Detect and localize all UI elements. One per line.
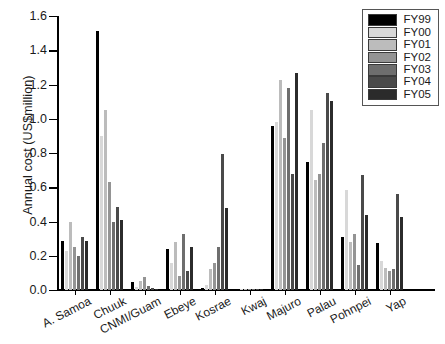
bar (380, 261, 383, 290)
x-axis-category-label: Majuro (264, 294, 303, 323)
legend-swatch (368, 76, 397, 88)
y-axis-tick (49, 85, 57, 86)
bar (61, 241, 64, 290)
bar (65, 251, 68, 290)
bar (178, 276, 181, 290)
bar (326, 93, 329, 290)
legend-label: FY99 (404, 14, 432, 26)
bar (131, 282, 134, 290)
bar (135, 287, 138, 290)
x-axis-tick (390, 290, 391, 295)
bar (108, 182, 111, 290)
bar (116, 207, 119, 290)
legend-label: FY03 (404, 64, 432, 76)
y-axis-tick (49, 187, 57, 188)
bar (357, 265, 360, 290)
y-axis-tick-label: 1.4 (30, 44, 47, 57)
legend-item: FY02 (368, 51, 432, 63)
bar (182, 234, 185, 291)
bar (96, 31, 99, 290)
y-axis-tick-label: 0.6 (30, 181, 47, 194)
x-axis-category-label: Yap (383, 294, 408, 316)
bar (287, 88, 290, 290)
x-axis-tick (215, 290, 216, 295)
bar (155, 289, 158, 290)
legend-label: FY00 (404, 27, 432, 39)
bar-group (166, 16, 194, 290)
legend-label: FY05 (404, 89, 432, 101)
bar-group (96, 16, 124, 290)
y-axis-tick-label: 1.6 (30, 10, 47, 23)
bar-group (131, 16, 159, 290)
bar (349, 242, 352, 290)
bar (85, 241, 88, 290)
bar (400, 217, 403, 290)
bar-group (61, 16, 89, 290)
bar (291, 174, 294, 290)
bar (217, 247, 220, 290)
bar (112, 222, 115, 291)
x-axis-tick (110, 290, 111, 295)
x-axis-tick (145, 290, 146, 295)
bar (318, 174, 321, 290)
x-axis-category-label: Ebeye (161, 294, 198, 322)
bar (151, 288, 154, 290)
bar (104, 110, 107, 290)
bar (236, 289, 239, 290)
bar (376, 243, 379, 290)
bar (283, 138, 286, 290)
bar (73, 247, 76, 290)
legend-swatch (368, 14, 397, 26)
bar (213, 263, 216, 290)
bar (392, 269, 395, 290)
legend-label: FY02 (404, 52, 432, 64)
bar (201, 288, 204, 290)
y-axis-tick-label: 0.2 (30, 250, 47, 263)
bar (252, 289, 255, 290)
legend-item: FY05 (368, 88, 432, 100)
legend-item: FY00 (368, 26, 432, 38)
bar (143, 277, 146, 290)
bar (322, 143, 325, 290)
bar (139, 281, 142, 290)
legend-item: FY04 (368, 76, 432, 88)
y-axis-tick-label: 0.0 (30, 284, 47, 297)
y-axis-tick (49, 153, 57, 154)
x-axis-category-label: A. Samoa (40, 294, 93, 330)
bar (365, 215, 368, 290)
bar (361, 175, 364, 290)
y-axis-tick-label: 0.8 (30, 147, 47, 160)
bar (295, 73, 298, 290)
bar (81, 237, 84, 290)
bar (271, 126, 274, 290)
bar-group (306, 16, 334, 290)
bar-group (236, 16, 264, 290)
bar (396, 194, 399, 290)
bar (205, 285, 208, 290)
bar (147, 286, 150, 290)
y-axis-tick (49, 256, 57, 257)
x-axis-tick (180, 290, 181, 295)
bar (225, 208, 228, 290)
bar (314, 180, 317, 290)
bar (209, 269, 212, 290)
plot-area: 0.00.20.40.60.81.01.21.41.6 (57, 16, 407, 290)
legend-item: FY03 (368, 64, 432, 76)
bar (120, 220, 123, 290)
x-axis-tick (285, 290, 286, 295)
legend-swatch (368, 52, 397, 64)
bar (330, 101, 333, 290)
legend-label: FY04 (404, 76, 432, 88)
x-axis-category-label: Kwaj (238, 294, 268, 318)
legend-swatch (368, 64, 397, 76)
legend-swatch (368, 27, 397, 39)
bar (345, 190, 348, 290)
bar (77, 256, 80, 290)
x-axis-category-label: Kosrae (193, 294, 233, 324)
legend-item: FY99 (368, 14, 432, 26)
y-axis-tick (49, 16, 57, 17)
bar (240, 289, 243, 290)
bar-group (201, 16, 229, 290)
bar (221, 154, 224, 290)
x-axis-tick (250, 290, 251, 295)
